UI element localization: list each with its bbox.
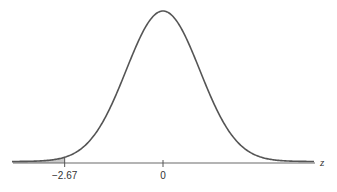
tick-label: −2.67 [52, 170, 78, 181]
z-axis-label: z [319, 156, 325, 168]
normal-curve [12, 11, 314, 161]
normal-distribution-chart: −2.670 z [0, 0, 337, 192]
tick-label: 0 [160, 170, 166, 181]
tick-group: −2.670 [52, 157, 166, 181]
